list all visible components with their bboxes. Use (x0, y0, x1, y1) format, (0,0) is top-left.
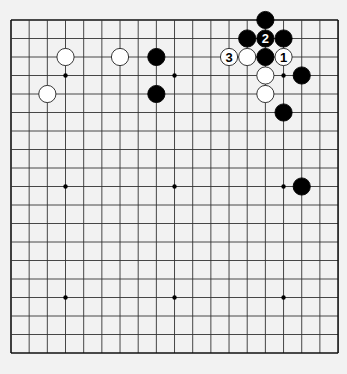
white-stone (39, 85, 56, 102)
star-point (281, 73, 285, 77)
star-point (172, 73, 176, 77)
white-stone (111, 48, 128, 65)
black-stone (239, 30, 256, 47)
go-board: 231 (0, 0, 347, 374)
white-stone (257, 67, 274, 84)
black-stone (257, 48, 274, 65)
star-point (63, 295, 67, 299)
white-stone (257, 85, 274, 102)
white-stone: 3 (220, 48, 237, 65)
star-point (281, 295, 285, 299)
black-stone (148, 85, 165, 102)
black-stone: 2 (257, 30, 274, 47)
star-point (63, 184, 67, 188)
black-stone (293, 67, 310, 84)
white-stone (57, 48, 74, 65)
star-point (172, 184, 176, 188)
go-board-diagram: 231 (0, 0, 347, 374)
move-number-label: 2 (262, 31, 269, 46)
star-point (63, 73, 67, 77)
white-stone: 1 (275, 48, 292, 65)
white-stone (239, 48, 256, 65)
move-number-label: 1 (280, 50, 287, 65)
black-stone (275, 104, 292, 121)
black-stone (293, 178, 310, 195)
black-stone (257, 11, 274, 28)
black-stone (148, 48, 165, 65)
move-number-label: 3 (225, 50, 232, 65)
star-point (172, 295, 176, 299)
black-stone (275, 30, 292, 47)
star-point (281, 184, 285, 188)
